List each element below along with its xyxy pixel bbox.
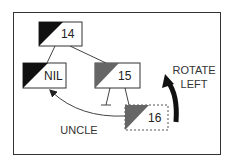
node-nil-label: NIL xyxy=(44,69,63,83)
node-14-label: 14 xyxy=(61,27,74,41)
rotate-label-line2: LEFT xyxy=(172,78,216,91)
rotate-label-line1: ROTATE xyxy=(172,64,216,77)
node-16-label: 16 xyxy=(148,111,161,125)
uncle-arrow xyxy=(52,92,125,116)
edge-14-nil xyxy=(47,46,55,63)
edge-15-null xyxy=(106,88,110,105)
edge-14-15 xyxy=(70,46,106,63)
edge-15-16 xyxy=(125,88,129,105)
node-16 xyxy=(125,105,168,130)
uncle-label: UNCLE xyxy=(59,124,99,137)
node-15-label: 15 xyxy=(118,69,131,83)
